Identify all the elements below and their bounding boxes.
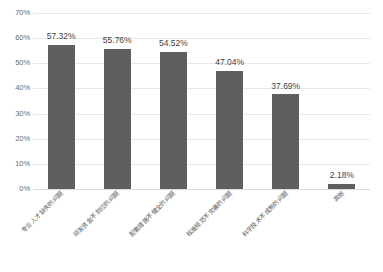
bar[interactable]	[48, 45, 75, 189]
bar-slot: 54.52%	[160, 13, 187, 189]
plot-area: 57.32%55.76%54.52%47.04%37.69%2.18%	[33, 13, 370, 189]
y-axis-tick-label: 60%	[0, 34, 30, 42]
bar-value-label: 2.18%	[330, 171, 354, 180]
bar-value-label: 37.69%	[271, 82, 300, 91]
bar[interactable]	[104, 49, 131, 189]
x-axis-category-label: 其他	[273, 190, 346, 263]
bar-value-label: 54.52%	[159, 39, 188, 48]
bar-slot: 2.18%	[328, 13, 355, 189]
bar-slot: 55.76%	[104, 13, 131, 189]
bar-value-label: 47.04%	[215, 58, 244, 67]
y-axis-tick-label: 50%	[0, 59, 30, 67]
bar-chart: 57.32%55.76%54.52%47.04%37.69%2.18% 0%10…	[0, 0, 383, 272]
bar[interactable]	[160, 52, 187, 189]
y-axis-tick-label: 10%	[0, 160, 30, 168]
bar-slot: 57.32%	[48, 13, 75, 189]
bar-value-label: 55.76%	[103, 36, 132, 45]
y-axis-tick-label: 30%	[0, 110, 30, 118]
y-axis-tick-label: 70%	[0, 9, 30, 17]
bars-layer: 57.32%55.76%54.52%47.04%37.69%2.18%	[33, 13, 370, 189]
bar[interactable]	[328, 184, 355, 189]
bar-slot: 47.04%	[216, 13, 243, 189]
bar-value-label: 57.32%	[47, 32, 76, 41]
y-axis-tick-label: 0%	[0, 185, 30, 193]
bar[interactable]	[272, 94, 299, 189]
x-axis-category-labels: 专业人才缺失的问题研发资金不到位的问题配套措施不健全的问题标准规范不完善的问题科…	[33, 190, 370, 272]
bar-slot: 37.69%	[272, 13, 299, 189]
bar[interactable]	[216, 71, 243, 189]
y-axis-tick-label: 20%	[0, 135, 30, 143]
y-axis-tick-label: 40%	[0, 84, 30, 92]
